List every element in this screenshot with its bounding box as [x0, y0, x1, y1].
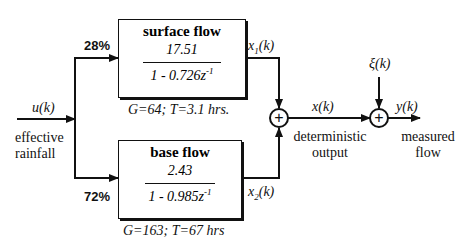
- base-flow-block: base flow 2.43 1 - 0.985z-1: [118, 140, 242, 219]
- measured-flow-line1: measured: [396, 129, 460, 145]
- surface-output-signal: x1(k): [248, 38, 274, 56]
- deterministic-output-line1: deterministic: [290, 129, 370, 145]
- surface-flow-denominator: 1 - 0.726z-1: [119, 66, 245, 84]
- sum-junction-2-symbol: +: [373, 108, 385, 128]
- surface-flow-fraction-bar: [143, 62, 221, 63]
- input-description-line1: effective: [15, 130, 64, 146]
- base-flow-numerator: 2.43: [119, 163, 241, 179]
- base-flow-params: G=163; T=67 hrs: [123, 223, 224, 239]
- noise-signal: ξ(k): [369, 56, 391, 72]
- sum-junction-1-symbol: +: [273, 108, 285, 128]
- surface-flow-title: surface flow: [119, 23, 245, 40]
- base-output-line: [244, 128, 279, 178]
- base-output-signal: x2(k): [248, 184, 274, 202]
- input-description-line2: rainfall: [15, 146, 55, 162]
- surface-flow-numerator: 17.51: [119, 42, 245, 58]
- deterministic-output-signal: x(k): [312, 99, 334, 115]
- base-flow-denominator: 1 - 0.985z-1: [119, 187, 241, 205]
- deterministic-output-line2: output: [290, 145, 370, 161]
- measured-output-signal: y(k): [396, 99, 418, 115]
- surface-fraction-label: 28%: [84, 38, 110, 53]
- base-fraction-label: 72%: [84, 189, 110, 204]
- surface-flow-params: G=64; T=3.1 hrs.: [128, 102, 229, 118]
- base-flow-fraction-bar: [145, 183, 215, 184]
- surface-output-line: [246, 58, 279, 108]
- base-flow-title: base flow: [119, 144, 241, 161]
- measured-flow-line2: flow: [396, 145, 460, 161]
- input-signal-label: u(k): [32, 100, 55, 116]
- surface-flow-block: surface flow 17.51 1 - 0.726z-1: [118, 19, 246, 98]
